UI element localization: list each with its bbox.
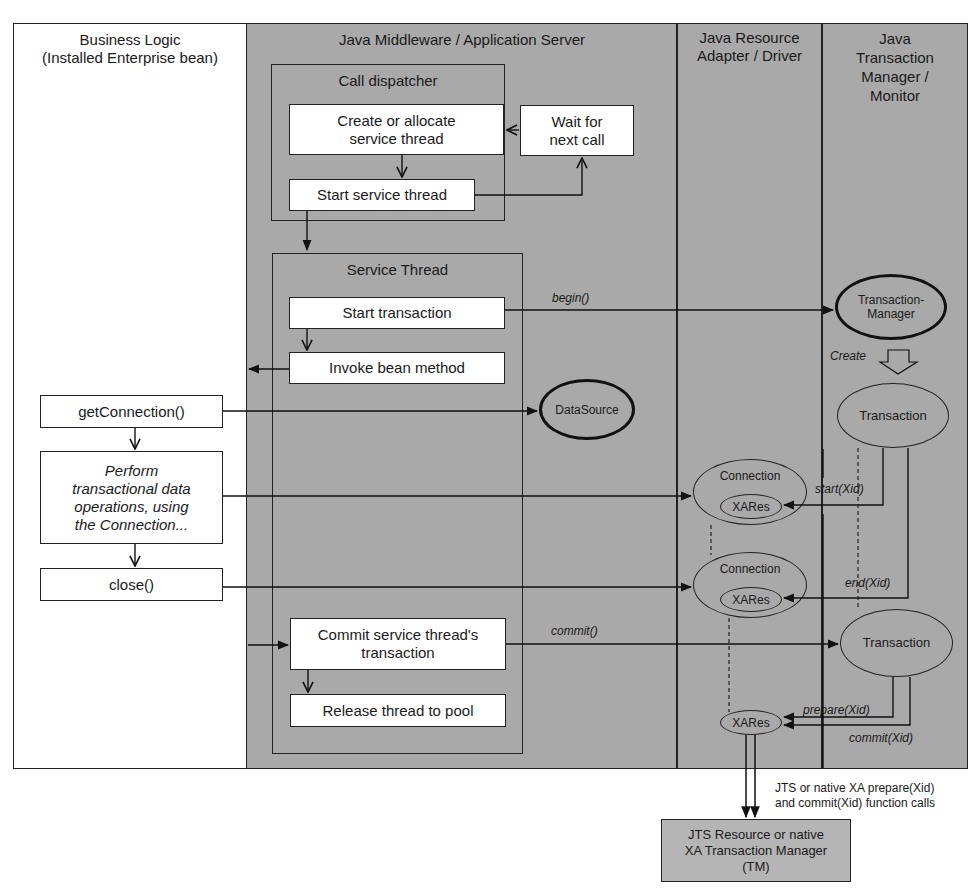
box-line: Perform xyxy=(72,462,190,480)
box-line: Commit service thread's xyxy=(318,626,478,644)
lane-title-line: Monitor xyxy=(823,86,967,105)
commit-transaction-box[interactable]: Commit service thread's transaction xyxy=(290,618,506,670)
start-service-thread-box[interactable]: Start service thread xyxy=(289,179,475,211)
lane-title-line: Java Resource xyxy=(678,29,821,47)
create-thread-box[interactable]: Create or allocate service thread xyxy=(289,104,504,155)
perform-operations-box[interactable]: Perform transactional data operations, u… xyxy=(40,451,223,544)
commit-xid-label: commit(Xid) xyxy=(849,731,913,745)
lane-title-line: Transaction xyxy=(823,48,967,67)
lane-title-line: Adapter / Driver xyxy=(678,47,821,65)
node-line: Manager xyxy=(858,307,924,321)
start-xid-label: start(Xid) xyxy=(815,482,864,496)
commit-label: commit() xyxy=(551,624,598,638)
xares-node-3[interactable]: XARes xyxy=(720,710,782,735)
prepare-xid-label: prepare(Xid) xyxy=(803,703,870,717)
lane-title-business-logic: Business Logic (Installed Enterprise bea… xyxy=(14,31,246,67)
call-dispatcher-title: Call dispatcher xyxy=(271,72,505,89)
lane-title-resource-adapter: Java Resource Adapter / Driver xyxy=(678,29,821,65)
tm-box-line: (TM) xyxy=(685,859,827,875)
tm-box-line: JTS Resource or native xyxy=(685,827,827,843)
external-tm-box[interactable]: JTS Resource or native XA Transaction Ma… xyxy=(661,819,851,882)
lane-title-line: Manager / xyxy=(823,67,967,86)
invoke-bean-method-box[interactable]: Invoke bean method xyxy=(289,352,505,384)
note-line: and commit(Xid) function calls xyxy=(775,796,935,811)
box-line: Create or allocate xyxy=(337,112,455,130)
lane-title-line: (Installed Enterprise bean) xyxy=(14,49,246,67)
close-box[interactable]: close() xyxy=(40,568,223,601)
box-line: the Connection... xyxy=(72,516,190,534)
datasource-node[interactable]: DataSource xyxy=(539,379,635,440)
release-thread-box[interactable]: Release thread to pool xyxy=(290,694,506,727)
note-line: JTS or native XA prepare(Xid) xyxy=(775,781,935,796)
lane-divider-resource xyxy=(676,23,678,769)
box-line: next call xyxy=(549,131,604,149)
node-line: Transaction- xyxy=(858,293,924,307)
box-line: service thread xyxy=(337,130,455,148)
transaction-manager-node[interactable]: Transaction- Manager xyxy=(835,274,947,340)
xares-node-1[interactable]: XARes xyxy=(720,494,782,519)
box-line: transaction xyxy=(318,644,478,662)
get-connection-box[interactable]: getConnection() xyxy=(40,395,223,428)
start-transaction-box[interactable]: Start transaction xyxy=(289,297,505,329)
transaction-node-2[interactable]: Transaction xyxy=(840,609,953,677)
box-line: operations, using xyxy=(72,498,190,516)
create-label: Create xyxy=(830,349,866,363)
lane-title-transaction-manager: Java Transaction Manager / Monitor xyxy=(823,29,967,105)
box-line: Wait for xyxy=(549,113,604,131)
lane-title-middleware: Java Middleware / Application Server xyxy=(248,31,676,49)
begin-label: begin() xyxy=(552,291,589,305)
box-line: transactional data xyxy=(72,480,190,498)
service-thread-title: Service Thread xyxy=(272,261,523,278)
xares-node-2[interactable]: XARes xyxy=(720,587,782,612)
lane-title-line: Java xyxy=(823,29,967,48)
xa-calls-note: JTS or native XA prepare(Xid) and commit… xyxy=(775,781,935,811)
end-xid-label: end(Xid) xyxy=(845,576,890,590)
lane-title-line: Business Logic xyxy=(14,31,246,49)
transaction-node-1[interactable]: Transaction xyxy=(837,383,949,448)
wait-next-call-box[interactable]: Wait for next call xyxy=(520,105,634,156)
lane-divider-tm xyxy=(821,23,823,769)
tm-box-line: XA Transaction Manager xyxy=(685,843,827,859)
